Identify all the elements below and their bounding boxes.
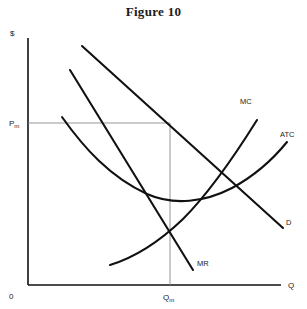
quantity-tick-label: Qm	[163, 293, 174, 303]
figure-container: Figure 10 $ Q 0 Pm Qm MC ATC D MR	[0, 0, 307, 309]
marginal-revenue-curve	[70, 70, 193, 270]
quantity-tick-subscript: m	[169, 297, 174, 303]
demand-label: D	[286, 218, 292, 227]
economics-diagram: $ Q 0 Pm Qm MC ATC D MR	[0, 0, 307, 309]
average-total-cost-label: ATC	[280, 130, 295, 139]
price-tick-label: Pm	[9, 119, 19, 129]
origin-label: 0	[9, 292, 14, 301]
x-axis-label: Q	[288, 281, 294, 290]
marginal-revenue-label: MR	[197, 259, 209, 268]
marginal-cost-label: MC	[240, 97, 252, 106]
y-axis-label: $	[10, 29, 15, 38]
price-tick-subscript: m	[14, 123, 19, 129]
marginal-cost-curve	[110, 120, 257, 265]
